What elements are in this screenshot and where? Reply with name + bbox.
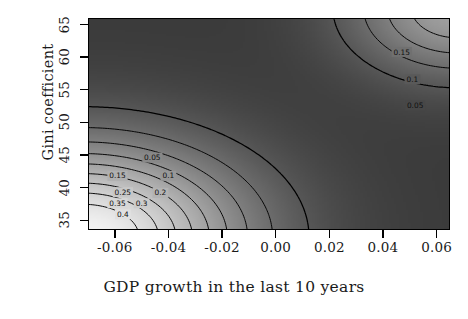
- y-tick-label: 40: [0, 181, 74, 195]
- y-tick-label-text: 65: [58, 15, 72, 33]
- x-tick: [114, 230, 115, 238]
- x-tick: [168, 230, 169, 238]
- y-tick-label-text: 60: [58, 48, 72, 66]
- y-tick-label-text: 35: [58, 211, 72, 229]
- contour-plot-figure: 0.050.150.10.20.250.30.350.40.050.10.15 …: [0, 0, 468, 319]
- y-tick: [80, 24, 88, 25]
- plot-area: 0.050.150.10.20.250.30.350.40.050.10.15: [88, 18, 450, 230]
- y-tick-label-text: 45: [58, 146, 72, 164]
- y-axis-title: Gini coefficient: [40, 2, 56, 202]
- y-tick-label-text: 50: [58, 113, 72, 131]
- y-tick: [80, 122, 88, 123]
- y-tick-label: 60: [0, 50, 74, 64]
- contour-label-text: 0.4: [117, 210, 129, 219]
- y-tick-label-text: 40: [58, 179, 72, 197]
- y-tick-label: 65: [0, 18, 74, 32]
- contour-label-text: 0.2: [155, 188, 167, 197]
- contour-label-text: 0.35: [109, 199, 126, 208]
- x-tick: [382, 230, 383, 238]
- y-tick: [80, 56, 88, 57]
- y-tick-label: 50: [0, 115, 74, 129]
- y-tick-label: 35: [0, 213, 74, 227]
- y-tick: [80, 187, 88, 188]
- y-tick-label: 55: [0, 83, 74, 97]
- y-tick-label: 45: [0, 148, 74, 162]
- x-tick-label: 0.06: [402, 240, 468, 254]
- contour-label-text: 0.1: [407, 75, 419, 84]
- x-tick: [436, 230, 437, 238]
- contour-label-text: 0.1: [163, 171, 175, 180]
- contour-label-text: 0.25: [115, 188, 132, 197]
- y-tick: [80, 89, 88, 90]
- y-tick: [80, 154, 88, 155]
- x-tick: [329, 230, 330, 238]
- x-axis-title: GDP growth in the last 10 years: [0, 278, 468, 296]
- contour-label-text: 0.3: [136, 199, 148, 208]
- y-tick-label-text: 55: [58, 81, 72, 99]
- contour-label-text: 0.15: [393, 48, 410, 57]
- x-tick: [275, 230, 276, 238]
- y-tick: [80, 220, 88, 221]
- contour-label-text: 0.15: [109, 171, 126, 180]
- contour-label-text: 0.05: [144, 153, 161, 162]
- contour-label-text: 0.05: [407, 101, 424, 110]
- x-tick: [221, 230, 222, 238]
- contour-surface: 0.050.150.10.20.250.30.350.40.050.10.15: [88, 18, 450, 230]
